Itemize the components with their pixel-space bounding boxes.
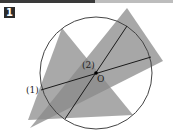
label-center-o: O [97,74,104,84]
geometry-figure: (1) (2) O [0,0,173,136]
label-line-2: (2) [82,60,95,70]
label-line-1: (1) [26,85,39,95]
